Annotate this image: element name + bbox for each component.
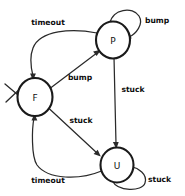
edge-label-f-to-p-bump: bump <box>68 73 93 82</box>
edge-path-p-to-f <box>31 31 97 76</box>
state-label-f: F <box>32 93 37 103</box>
state-label-u: U <box>114 161 121 171</box>
state-node-f[interactable]: F <box>18 78 53 116</box>
state-node-p[interactable]: P <box>96 22 130 59</box>
state-diagram: timeout bump bump stuck stuck <box>0 0 185 196</box>
transition-p-to-u-stuck: stuck <box>113 57 146 149</box>
edge-label-u-to-f-timeout: timeout <box>31 176 65 185</box>
transition-f-to-u-stuck: stuck <box>49 108 101 157</box>
edge-label-f-to-u-stuck: stuck <box>69 116 93 125</box>
edge-path-f-to-p <box>51 53 98 89</box>
state-machine-canvas: timeout bump bump stuck stuck <box>0 0 185 196</box>
edge-label-p-to-f-timeout: timeout <box>31 18 65 27</box>
edge-path-p-to-u <box>114 57 116 144</box>
edge-label-u-self-stuck: stuck <box>148 175 172 184</box>
transition-f-to-p-bump: bump <box>51 50 102 88</box>
edge-label-p-self-bump: bump <box>145 16 170 25</box>
state-label-p: P <box>110 36 116 46</box>
state-node-u[interactable]: U <box>101 148 134 183</box>
edge-label-p-to-u-stuck: stuck <box>121 85 145 94</box>
transition-p-to-f-timeout: timeout <box>30 18 97 81</box>
